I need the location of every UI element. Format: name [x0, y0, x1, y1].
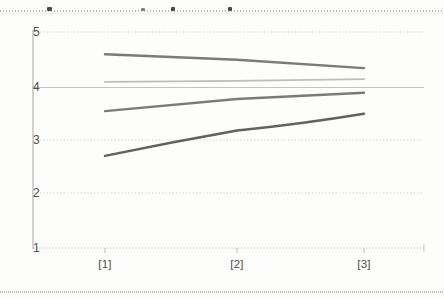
x-tick-label-3: [3] [357, 258, 370, 270]
x-tick-label-2: [2] [230, 258, 243, 270]
x-axis-labels: [1] [2] [3] [0, 0, 444, 298]
line-chart: 5 4 3 2 1 [1] [2] [3] [0, 0, 444, 298]
x-tick-label-1: [1] [98, 258, 111, 270]
